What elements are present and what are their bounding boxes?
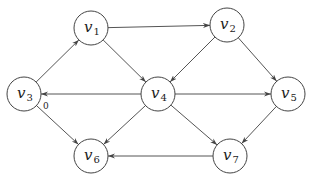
node-v7: v7	[213, 139, 247, 173]
node-v1: v1	[74, 11, 108, 45]
node-label-subscript: 4	[160, 92, 166, 103]
edge-v4-v7	[171, 105, 217, 145]
node-v5: v5	[271, 77, 305, 111]
node-label-subscript: 1	[93, 26, 99, 37]
node-label-subscript: 2	[229, 23, 235, 34]
node-v6: v6	[74, 139, 108, 173]
edge-v2-v5	[238, 38, 276, 82]
edge-v4-v6	[103, 106, 145, 145]
edge-v1-v4	[103, 40, 146, 82]
node-label-subscript: 5	[290, 92, 296, 103]
edge-v1-v2	[108, 25, 210, 27]
node-label-subscript: 3	[26, 92, 32, 103]
node-label-subscript: 6	[93, 154, 99, 165]
edge-v3-v6	[36, 106, 78, 145]
graph-canvas: v1v2v3v4v5v6v7 0	[0, 0, 315, 181]
node-v4: v4	[141, 77, 175, 111]
node-v3: v3	[7, 77, 41, 111]
edge-v5-v7	[242, 106, 277, 143]
edge-annotation: 0	[43, 101, 49, 111]
node-label-subscript: 7	[232, 154, 238, 165]
edge-v2-v4	[170, 37, 215, 82]
edge-v3-v1	[36, 40, 79, 82]
nodes-layer: v1v2v3v4v5v6v7	[7, 8, 305, 173]
annotations-layer: 0	[43, 101, 49, 111]
node-v2: v2	[210, 8, 244, 42]
